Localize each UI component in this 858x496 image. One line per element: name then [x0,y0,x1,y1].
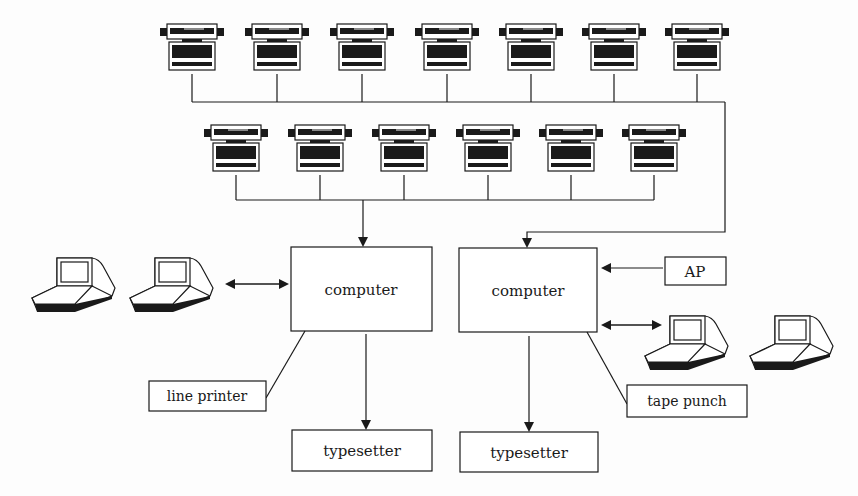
top-row-typewriters [160,24,729,70]
typewriter-terminal-icon [622,125,686,171]
typewriter-terminal-icon [330,24,394,70]
typewriter-terminal-icon [456,125,520,171]
line-printer-connector [266,331,305,398]
typewriter-terminal-icon [499,24,563,70]
computer-left-label: computer [325,281,399,299]
video-terminal-icon [130,258,213,312]
typewriter-terminal-icon [245,24,309,70]
typewriter-terminal-icon [415,24,479,70]
video-terminal-icon [750,316,833,370]
typesetter-right-box: typesetter [460,432,598,472]
typesetter-right-label: typesetter [490,444,568,462]
line-printer-label: line printer [167,388,248,404]
typesetter-left-box: typesetter [292,430,432,471]
typewriter-terminal-icon [160,24,224,70]
computer-right-box: computer [459,248,597,332]
video-terminal-icon [645,316,728,370]
typewriter-terminal-icon [372,125,436,171]
left-video-terminals [32,258,213,312]
ap-box: AP [665,257,726,285]
typewriter-terminal-icon [539,125,603,171]
line-printer-box: line printer [149,381,266,411]
video-terminal-icon [32,258,115,312]
second-row-typewriters [204,125,686,171]
tape-punch-connector [587,332,627,404]
typewriter-terminal-icon [582,24,646,70]
system-diagram: computer computer AP line printer typese… [0,0,858,496]
tape-punch-label: tape punch [647,393,727,409]
right-video-terminals [645,316,833,370]
computer-left-box: computer [291,247,432,331]
second-bus-line [236,175,654,245]
typesetter-left-label: typesetter [323,442,401,460]
typewriter-terminal-icon [665,24,729,70]
typewriter-terminal-icon [288,125,352,171]
tape-punch-box: tape punch [627,385,747,417]
ap-label: AP [684,263,706,281]
typewriter-terminal-icon [204,125,268,171]
computer-right-label: computer [492,282,566,300]
